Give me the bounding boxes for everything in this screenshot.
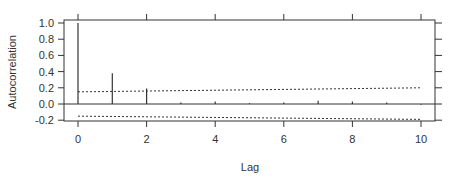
x-tick-label: 2 [144,133,150,145]
y-tick-label: 0.0 [39,98,54,110]
x-tick-label: 0 [75,133,81,145]
x-tick-label: 6 [281,133,287,145]
x-tick-label: 4 [212,133,218,145]
acf-spikes [78,23,421,105]
plot-box [64,20,435,121]
y-tick-label: 0.8 [39,33,54,45]
plot-frame [64,20,435,121]
x-tick-label: 10 [415,133,427,145]
y-tick-label: 1.0 [39,17,54,29]
y-tick-label: 0.4 [39,66,54,78]
x-axis-title: Lag [241,161,259,173]
y-tick-label: 0.6 [39,49,54,61]
y-axis: -0.20.00.20.40.60.81.0 [35,17,442,126]
acf-chart: 0246810 -0.20.00.20.40.60.81.0 Lag Autoc… [0,0,454,182]
x-axis: 0246810 [75,14,427,145]
x-tick-label: 8 [349,133,355,145]
y-axis-title: Autocorrelation [6,35,18,109]
y-tick-label: 0.2 [39,82,54,94]
confidence-band-lower [78,116,421,119]
confidence-band-upper [78,88,421,92]
y-tick-label: -0.2 [35,114,54,126]
